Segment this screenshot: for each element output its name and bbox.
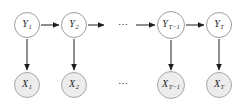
ellipsis-top: ⋯ <box>112 20 134 30</box>
node-y1-label: Y1 <box>22 19 31 31</box>
node-xt-1-sub: T−1 <box>169 83 180 90</box>
ellipsis-bottom: ⋯ <box>112 79 134 89</box>
node-yt: YT <box>206 12 232 38</box>
node-x2-label: X2 <box>69 79 79 91</box>
node-xt: XT <box>206 72 232 98</box>
node-yt-1-sub: T−1 <box>168 23 179 30</box>
node-yt-label: YT <box>214 19 224 31</box>
node-y2-sub: 2 <box>75 23 78 30</box>
node-y1: Y1 <box>14 12 40 38</box>
node-yt-base: Y <box>214 18 220 29</box>
node-x2: X2 <box>61 72 87 98</box>
node-y2-label: Y2 <box>69 19 78 31</box>
node-yt-sub: T <box>220 23 224 30</box>
node-xt-label: XT <box>214 79 224 91</box>
node-xt-1-label: XT−1 <box>162 79 180 91</box>
node-yt-1-label: YT−1 <box>162 19 179 31</box>
node-y2: Y2 <box>61 12 87 38</box>
node-y1-sub: 1 <box>28 23 31 30</box>
node-x2-base: X <box>69 78 75 89</box>
node-x1-label: X1 <box>22 79 32 91</box>
node-yt-1: YT−1 <box>157 11 185 39</box>
node-xt-1-base: X <box>162 78 168 89</box>
node-x2-sub: 2 <box>76 83 79 90</box>
node-xt-sub: T <box>220 83 224 90</box>
node-x1-base: X <box>22 78 28 89</box>
hmm-diagram: Y1 Y2 YT−1 YT X1 X2 XT−1 XT ⋯ ⋯ <box>0 0 244 106</box>
node-x1-sub: 1 <box>29 83 32 90</box>
node-x1: X1 <box>14 72 40 98</box>
node-xt-1: XT−1 <box>157 71 185 99</box>
